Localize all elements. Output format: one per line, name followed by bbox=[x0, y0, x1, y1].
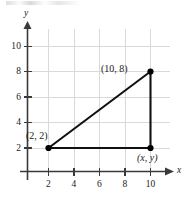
point-label-2-2: (2, 2) bbox=[26, 131, 48, 141]
vertex-marker-x-y bbox=[147, 145, 153, 151]
y-axis-label: y bbox=[24, 9, 28, 19]
x-tick-label-4: 4 bbox=[64, 180, 84, 190]
y-tick-label-6: 6 bbox=[2, 93, 21, 103]
x-tick-label-8: 8 bbox=[115, 180, 135, 190]
y-tick-label-2: 2 bbox=[2, 144, 21, 154]
plot-canvas bbox=[0, 0, 188, 198]
coordinate-plane-figure: 10 8 6 4 2 2 4 6 8 10 y x (10, 8) (2, 2)… bbox=[0, 0, 188, 198]
x-axis-label: x bbox=[177, 166, 181, 176]
vertex-marker-10-8 bbox=[147, 68, 153, 74]
x-tick-label-6: 6 bbox=[90, 180, 110, 190]
y-tick-label-10: 10 bbox=[2, 42, 21, 52]
point-label-10-8: (10, 8) bbox=[101, 64, 128, 74]
point-label-x-y: (x, y) bbox=[137, 153, 158, 163]
y-axis-arrowhead bbox=[24, 21, 32, 29]
y-tick-label-4: 4 bbox=[2, 118, 21, 128]
vertex-marker-2-2 bbox=[45, 145, 51, 151]
y-tick-label-8: 8 bbox=[2, 67, 21, 77]
x-tick-label-10: 10 bbox=[141, 180, 161, 190]
x-axis-arrowhead bbox=[165, 168, 174, 176]
x-tick-label-2: 2 bbox=[39, 180, 59, 190]
